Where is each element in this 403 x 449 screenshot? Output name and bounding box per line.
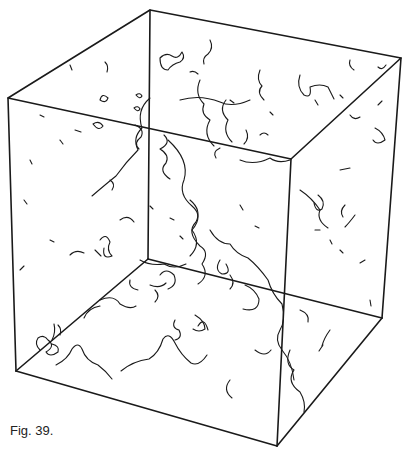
cube-figure (0, 0, 403, 449)
contour-lines (20, 40, 386, 412)
figure-caption: Fig. 39. (10, 423, 53, 438)
cube-wireframe (8, 10, 401, 446)
